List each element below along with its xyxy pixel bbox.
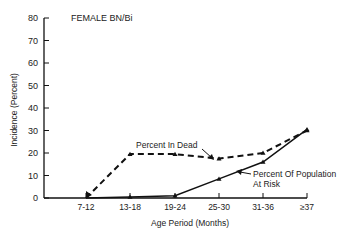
- y-tick-label: 50: [28, 81, 38, 91]
- y-tick-label: 20: [28, 148, 38, 158]
- y-tick-label: 80: [28, 13, 38, 23]
- y-tick-label: 40: [28, 103, 38, 113]
- x-tick-label: ≥37: [300, 202, 314, 212]
- x-tick-label: 13-18: [119, 202, 141, 212]
- arrowhead-icon: [86, 191, 92, 198]
- y-tick-label: 70: [28, 36, 38, 46]
- y-axis: 01020304050607080: [28, 13, 49, 203]
- annotation-risk-line2: At Risk: [253, 179, 281, 189]
- x-axis: 7-1213-1819-2425-3031-36≥37: [44, 193, 314, 212]
- chart-title: FEMALE BN/Bi: [71, 13, 133, 23]
- y-tick-label: 30: [28, 126, 38, 136]
- line-chart: 01020304050607080 7-1213-1819-2425-3031-…: [0, 0, 351, 242]
- y-tick-label: 10: [28, 171, 38, 181]
- y-axis-label: Incidence (Percent): [9, 73, 19, 147]
- y-tick-label: 0: [33, 193, 38, 203]
- annotations: Percent In Dead Percent Of Population At…: [86, 140, 336, 198]
- x-tick-label: 19-24: [164, 202, 186, 212]
- data-point-marker: [305, 127, 310, 131]
- annotation-risk-line1: Percent Of Population: [253, 169, 336, 179]
- x-tick-label: 25-30: [208, 202, 230, 212]
- x-axis-label: Age Period (Months): [151, 218, 229, 228]
- annotation-dead: Percent In Dead: [136, 140, 198, 150]
- x-tick-label: 31-36: [252, 202, 274, 212]
- y-tick-label: 60: [28, 58, 38, 68]
- annotation-risk-arrow: [240, 172, 251, 174]
- x-tick-label: 7-12: [77, 202, 94, 212]
